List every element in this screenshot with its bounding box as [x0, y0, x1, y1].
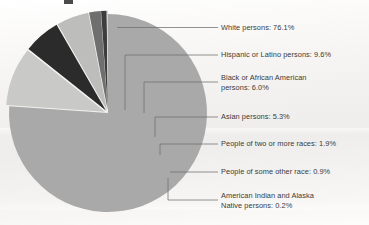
pie-label-black-or-african-american-persons-line2: persons: 6.0%: [221, 83, 306, 93]
pie-label-hispanic-or-latino-persons: Hispanic or Latino persons: 9.6%: [221, 50, 331, 60]
pie-label-american-indian-and-alaska-native-persons: American Indian and Alaska Native person…: [221, 191, 314, 210]
pie-label-american-indian-and-alaska-native-persons-line1: American Indian and Alaska: [221, 191, 314, 201]
pie-label-people-of-two-or-more-races-text: People of two or more races: 1.9%: [221, 139, 336, 148]
pie-label-people-of-two-or-more-races: People of two or more races: 1.9%: [221, 139, 336, 149]
pie-label-american-indian-and-alaska-native-persons-line2: Native persons: 0.2%: [221, 201, 314, 211]
pie-label-white-persons-text: White persons: 76.1%: [221, 23, 294, 32]
pie-label-hispanic-or-latino-persons-text: Hispanic or Latino persons: 9.6%: [221, 50, 331, 59]
pie-slices: [6, 11, 207, 212]
pie-label-people-of-some-other-race-text: People of some other race: 0.9%: [221, 167, 330, 176]
pie-label-white-persons: White persons: 76.1%: [221, 23, 294, 33]
pie-label-asian-persons-text: Asian persons: 5.3%: [221, 112, 290, 121]
pie-label-asian-persons: Asian persons: 5.3%: [221, 112, 290, 122]
pie-label-people-of-some-other-race: People of some other race: 0.9%: [221, 167, 330, 177]
pie-label-black-or-african-american-persons: Black or African American persons: 6.0%: [221, 73, 306, 92]
pie-label-black-or-african-american-persons-line1: Black or African American: [221, 73, 306, 83]
chart-page: White persons: 76.1% Hispanic or Latino …: [0, 0, 369, 225]
